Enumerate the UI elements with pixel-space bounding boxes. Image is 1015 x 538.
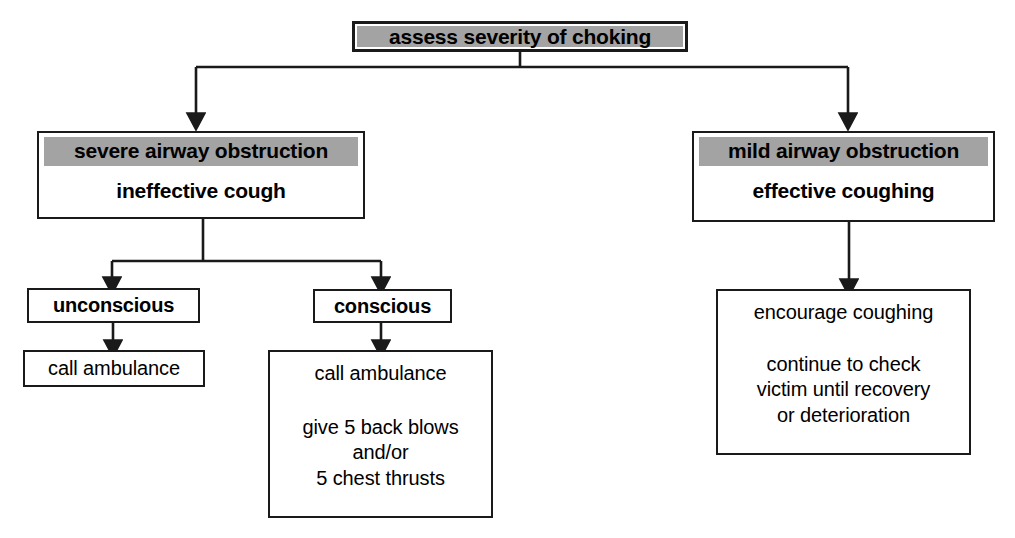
node-conscious-action-line-4: 5 chest thrusts bbox=[316, 466, 445, 492]
node-mild-action-line-2: continue to check bbox=[767, 352, 921, 378]
node-severe-airway-obstruction: severe airway obstruction ineffective co… bbox=[37, 131, 365, 219]
node-assess-severity-label: assess severity of choking bbox=[389, 26, 651, 47]
node-conscious-actions: call ambulance give 5 back blows and/or … bbox=[268, 350, 493, 518]
node-mild-action-line-3: victim until recovery bbox=[757, 377, 931, 403]
connector-layer bbox=[0, 0, 1015, 538]
title-highlight-band: assess severity of choking bbox=[357, 26, 683, 47]
node-conscious-action-line-1: call ambulance bbox=[314, 361, 446, 387]
node-conscious: conscious bbox=[313, 289, 452, 323]
node-assess-severity: assess severity of choking bbox=[352, 21, 688, 52]
node-mild-action-line-4: or deterioration bbox=[777, 403, 910, 429]
node-severe-header: severe airway obstruction bbox=[44, 137, 358, 166]
node-conscious-action-line-2: give 5 back blows bbox=[302, 415, 458, 441]
node-mild-action-line-1: encourage coughing bbox=[754, 300, 933, 326]
node-unconscious-action-label: call ambulance bbox=[48, 356, 180, 382]
connector-severe-split bbox=[112, 219, 381, 282]
node-mild-airway-obstruction: mild airway obstruction effective coughi… bbox=[692, 131, 995, 222]
node-encourage-coughing: encourage coughing continue to check vic… bbox=[716, 289, 971, 455]
node-mild-header: mild airway obstruction bbox=[699, 137, 988, 166]
node-severe-subtitle: ineffective cough bbox=[116, 179, 285, 203]
node-unconscious-call-ambulance: call ambulance bbox=[23, 350, 205, 387]
node-unconscious: unconscious bbox=[27, 288, 200, 323]
node-unconscious-label: unconscious bbox=[53, 294, 174, 317]
node-mild-subtitle: effective coughing bbox=[753, 179, 935, 203]
node-conscious-action-line-3: and/or bbox=[352, 440, 408, 466]
node-conscious-label: conscious bbox=[334, 295, 431, 318]
connector-title-split bbox=[196, 52, 848, 118]
choking-algorithm-flowchart: assess severity of choking severe airway… bbox=[0, 0, 1015, 538]
